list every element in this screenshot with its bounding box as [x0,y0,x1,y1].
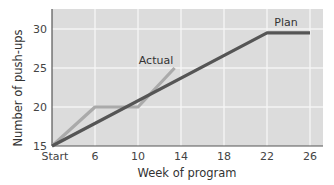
x-axis-label: Week of program [138,166,237,180]
x-tick-label: 10 [131,150,145,163]
x-tick-label: 6 [92,150,99,163]
y-tick-label: 20 [33,101,47,114]
series-label-plan: Plan [274,16,297,29]
x-tick-label: 22 [260,150,274,163]
x-tick-label: 18 [217,150,231,163]
y-axis-label: Number of push-ups [11,29,25,146]
series-label-actual: Actual [139,54,173,67]
y-tick-label: 30 [33,23,47,36]
y-tick-label: 25 [33,62,47,75]
push-ups-line-chart: Start6101418222615202530 PlanActual Week… [0,0,334,185]
y-tick-label: 15 [33,140,47,153]
x-tick-label: 14 [174,150,188,163]
x-tick-label: 26 [303,150,317,163]
